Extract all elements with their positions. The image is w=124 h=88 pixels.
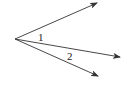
- ray-bottom: [15, 39, 98, 76]
- ray-top: [15, 3, 97, 39]
- angle-diagram: 1 2: [0, 0, 124, 88]
- angle-label-2: 2: [67, 50, 73, 62]
- angle-label-1: 1: [38, 31, 44, 43]
